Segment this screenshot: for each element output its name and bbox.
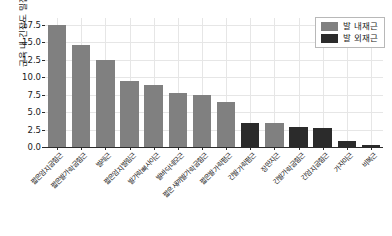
x-axis-tick bbox=[105, 147, 106, 150]
chart-figure: 근육 내 긴장도 밀집도(%) 0.02.55.07.510.012.515.0… bbox=[0, 0, 392, 236]
y-axis-tick bbox=[42, 95, 45, 96]
x-axis-tick bbox=[130, 147, 131, 150]
x-axis-tick bbox=[371, 147, 372, 150]
x-axis-tick bbox=[250, 147, 251, 150]
legend-swatch-intrinsic bbox=[321, 22, 338, 31]
x-axis-tick bbox=[299, 147, 300, 150]
x-axis-tick bbox=[57, 147, 58, 150]
legend[interactable]: 발 내재근발 외재근 bbox=[315, 17, 385, 48]
legend-item-extrinsic[interactable]: 발 외재근 bbox=[321, 34, 378, 43]
y-axis-tick bbox=[42, 25, 45, 26]
legend-label-intrinsic: 발 내재근 bbox=[343, 22, 378, 31]
y-axis-tick bbox=[42, 130, 45, 131]
y-axis-tick bbox=[42, 112, 45, 113]
y-axis-tick bbox=[42, 60, 45, 61]
x-axis-tick bbox=[274, 147, 275, 150]
legend-swatch-extrinsic bbox=[321, 34, 338, 43]
x-axis-tick bbox=[323, 147, 324, 150]
x-axis-tick bbox=[202, 147, 203, 150]
x-axis-tick-label: 벌레근 bbox=[96, 152, 114, 170]
x-axis-tick bbox=[154, 147, 155, 150]
y-axis-tick bbox=[42, 77, 45, 78]
y-axis-tick bbox=[42, 42, 45, 43]
x-axis-tick bbox=[81, 147, 82, 150]
legend-label-extrinsic: 발 외재근 bbox=[343, 34, 378, 43]
y-axis-tick bbox=[42, 147, 45, 148]
x-axis-tick bbox=[178, 147, 179, 150]
x-axis-tick-label: 가자미근 bbox=[333, 152, 355, 174]
x-axis-tick bbox=[347, 147, 348, 150]
x-axis-tick bbox=[226, 147, 227, 150]
x-axis-tick-label: 비복근 bbox=[361, 152, 379, 170]
legend-item-intrinsic[interactable]: 발 내재근 bbox=[321, 22, 378, 31]
x-axis-tick-label: 장딴지근 bbox=[260, 152, 282, 174]
